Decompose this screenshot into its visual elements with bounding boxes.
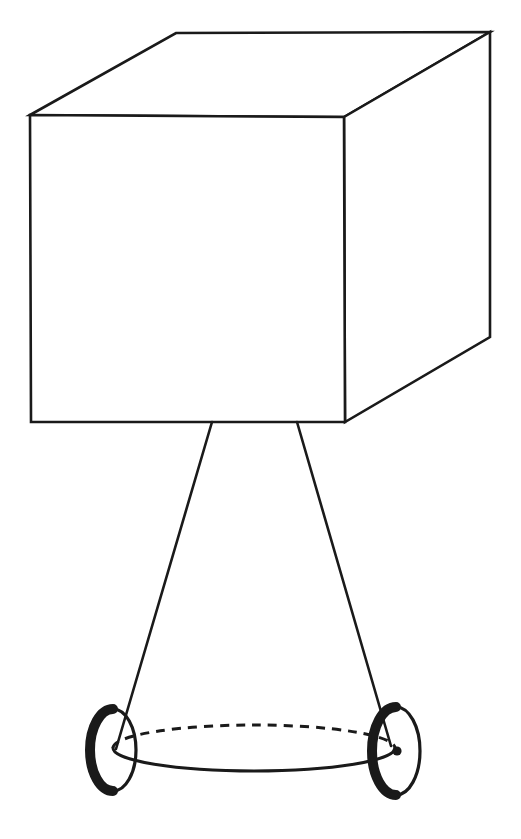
figure-canvas: Line drawing of a box on a two-wheeled a…	[0, 0, 521, 839]
right-wheel-hub-dot	[392, 746, 401, 755]
line-drawing-svg: Line drawing of a box on a two-wheeled a…	[0, 0, 521, 839]
cube-box-group	[30, 32, 490, 422]
box-front-face	[30, 115, 345, 422]
